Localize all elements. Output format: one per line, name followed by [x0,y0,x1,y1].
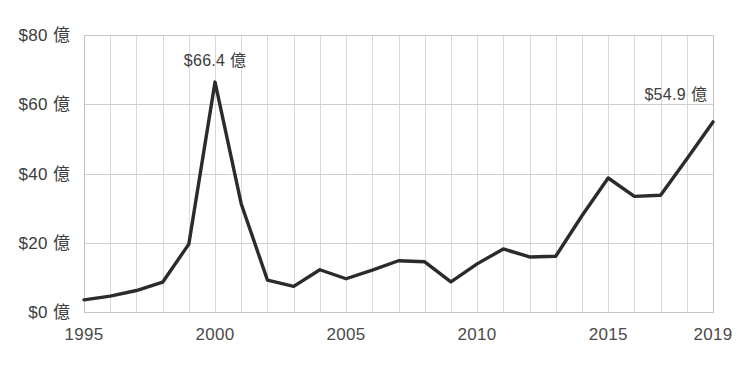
data-label-annotation: $66.4 億 [184,52,247,69]
x-axis-tick-label: 2000 [196,325,235,344]
y-axis-tick-label: $80 億 [18,26,70,45]
chart-canvas: $0 億$20 億$40 億$60 億$80 億 199520002005201… [0,0,750,376]
x-axis-tick-label: 2015 [589,325,628,344]
y-axis-tick-label: $20 億 [18,234,70,253]
y-axis-tick-label: $40 億 [18,165,70,184]
x-axis-tick-label: 2005 [327,325,366,344]
y-axis-tick-label: $0 億 [28,303,70,322]
data-label-annotation: $54.9 億 [644,86,707,103]
chart-background [0,0,750,376]
x-axis-tick-label: 1995 [64,325,103,344]
line-chart-figure: $0 億$20 億$40 億$60 億$80 億 199520002005201… [0,0,750,376]
y-axis-tick-label: $60 億 [18,95,70,114]
x-axis-tick-label: 2019 [693,325,732,344]
x-axis-tick-label: 2010 [458,325,497,344]
